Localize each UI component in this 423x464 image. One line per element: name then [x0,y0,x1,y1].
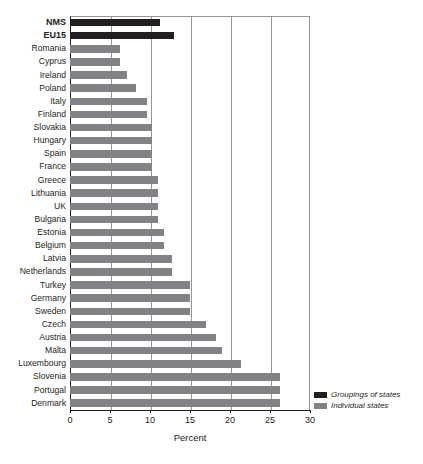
bar-germany [70,294,190,302]
bar-container [70,331,216,344]
bar-container [70,55,120,68]
bar-row: Lithuania [0,187,423,200]
bar-row: Bulgaria [0,213,423,226]
tick-label-0: 0 [67,415,72,425]
bar-luxembourg [70,360,241,368]
category-label-austria: Austria [0,333,66,342]
bar-finland [70,111,147,119]
category-label-slovenia: Slovenia [0,372,66,381]
category-label-eu15: EU15 [0,31,66,40]
bar-eu15 [70,32,174,40]
bar-row: Spain [0,147,423,160]
tick-mark-0 [70,410,71,413]
legend-item-grouping: Groupings of states [314,390,400,399]
bar-row: Poland [0,82,423,95]
legend-swatch-grouping-icon [314,392,327,398]
bar-container [70,397,280,410]
bar-container [70,239,164,252]
bar-netherlands [70,268,172,276]
bar-container [70,226,164,239]
category-label-estonia: Estonia [0,228,66,237]
bar-row: Latvia [0,252,423,265]
bar-container [70,108,147,121]
category-label-hungary: Hungary [0,136,66,145]
bar-row: Estonia [0,226,423,239]
tick-label-15: 15 [185,415,195,425]
legend-item-individual: Individual states [314,401,400,410]
tick-mark-10 [150,410,151,413]
bar-spain [70,150,152,158]
bar-poland [70,84,136,92]
category-label-bulgaria: Bulgaria [0,215,66,224]
tick-label-5: 5 [107,415,112,425]
category-label-lithuania: Lithuania [0,189,66,198]
bar-container [70,69,127,82]
x-axis-title: Percent [70,432,310,443]
bar-row: Romania [0,42,423,55]
category-label-uk: UK [0,202,66,211]
bar-slovenia [70,373,280,381]
category-label-netherlands: Netherlands [0,267,66,276]
category-label-italy: Italy [0,97,66,106]
bar-container [70,29,174,42]
bar-row: Czech [0,318,423,331]
bar-row: Malta [0,344,423,357]
bar-row: Hungary [0,134,423,147]
bar-rows: NMSEU15RomaniaCyprusIrelandPolandItalyFi… [0,16,423,410]
bar-container [70,95,147,108]
bar-hungary [70,137,152,145]
category-label-ireland: Ireland [0,71,66,80]
bar-row: Germany [0,292,423,305]
bar-malta [70,347,222,355]
category-label-czech: Czech [0,320,66,329]
bar-container [70,160,152,173]
bar-ireland [70,71,127,79]
bar-container [70,252,172,265]
bar-container [70,82,136,95]
legend-swatch-individual-icon [314,403,327,409]
tick-label-20: 20 [225,415,235,425]
bar-greece [70,176,158,184]
bar-turkey [70,281,190,289]
bar-row: Luxembourg [0,357,423,370]
bar-row: Turkey [0,279,423,292]
bar-container [70,16,160,29]
bar-container [70,213,158,226]
bar-container [70,200,158,213]
bar-row: UK [0,200,423,213]
bar-container [70,318,206,331]
bar-france [70,163,152,171]
bar-container [70,174,158,187]
category-label-latvia: Latvia [0,254,66,263]
bar-container [70,279,190,292]
category-label-malta: Malta [0,346,66,355]
bar-row: Ireland [0,69,423,82]
bar-austria [70,334,216,342]
bar-row: France [0,160,423,173]
bar-container [70,357,241,370]
tick-mark-15 [190,410,191,413]
category-label-romania: Romania [0,44,66,53]
bar-container [70,370,280,383]
category-label-france: France [0,162,66,171]
category-label-poland: Poland [0,84,66,93]
tick-mark-25 [270,410,271,413]
bar-row: Slovakia [0,121,423,134]
bar-container [70,187,158,200]
bar-container [70,265,172,278]
tick-label-25: 25 [265,415,275,425]
category-label-portugal: Portugal [0,386,66,395]
category-label-spain: Spain [0,149,66,158]
bar-container [70,147,152,160]
bar-container [70,305,190,318]
tick-mark-5 [110,410,111,413]
category-label-greece: Greece [0,176,66,185]
category-label-turkey: Turkey [0,281,66,290]
category-label-cyprus: Cyprus [0,57,66,66]
bar-italy [70,98,147,106]
legend: Groupings of states Individual states [314,390,400,412]
category-label-slovakia: Slovakia [0,123,66,132]
category-label-finland: Finland [0,110,66,119]
bar-row: Italy [0,95,423,108]
bar-row: Finland [0,108,423,121]
